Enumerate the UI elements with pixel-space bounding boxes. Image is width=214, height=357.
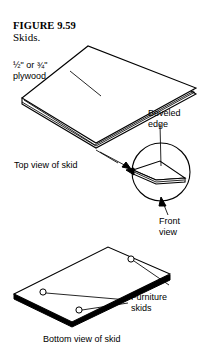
label-beveled-edge: Beveled edge: [148, 108, 181, 130]
label-furniture-skids: Furniture skids: [131, 292, 167, 314]
furniture-skid-glide: [40, 289, 46, 295]
label-bottom-view-of-skid: Bottom view of skid: [43, 334, 121, 345]
top-view-pointer: [100, 152, 131, 169]
bottom-view-skid-drawing: [14, 247, 170, 327]
label-plywood-thickness: ½" or ¾" plywood: [13, 60, 47, 82]
furniture-skid-glide: [128, 256, 134, 262]
top-view-skid-drawing: [22, 46, 196, 148]
figure-artwork: [0, 0, 214, 357]
figure-container: FIGURE 9.59 Skids.: [0, 0, 214, 357]
detail-entry-arrow: [126, 168, 134, 175]
beveled-edge-detail-callout: [126, 124, 190, 201]
skid-edge-leader: [96, 150, 118, 163]
furniture-skid-glide: [76, 307, 82, 313]
label-front-view: Front view: [159, 216, 180, 238]
label-top-view-of-skid: Top view of skid: [14, 160, 78, 171]
